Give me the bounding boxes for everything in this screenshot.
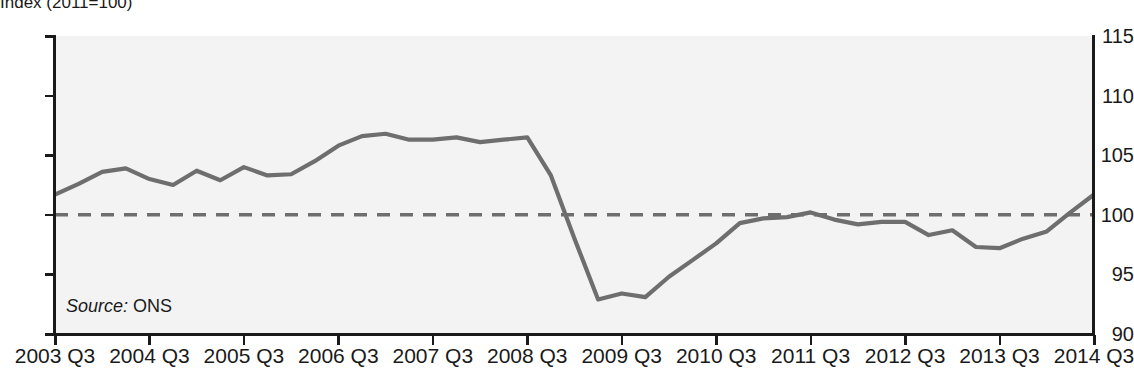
x-tick-mark <box>810 335 813 345</box>
y-tick-label: 105 <box>1092 145 1134 165</box>
y-tick-mark <box>45 95 54 98</box>
plot-right-border <box>1092 35 1095 335</box>
source-label: Source: <box>66 296 128 316</box>
y-tick-mark <box>45 333 54 336</box>
source-note: Source: ONS <box>66 296 172 317</box>
x-axis-line <box>53 333 1095 336</box>
y-tick-mark <box>45 273 54 276</box>
y-tick-label: 115 <box>1092 26 1134 46</box>
x-tick-mark <box>999 335 1002 345</box>
x-tick-mark <box>1093 335 1096 345</box>
chart-figure: Index (2011=100) 1151101051009590 2003 Q… <box>0 0 1134 371</box>
y-tick-label: 100 <box>1092 205 1134 225</box>
x-tick-mark <box>243 335 246 345</box>
plot-svg <box>55 36 1094 334</box>
y-tick-mark <box>45 154 54 157</box>
source-value: ONS <box>133 296 172 316</box>
x-tick-mark <box>54 335 57 345</box>
x-tick-mark <box>337 335 340 345</box>
plot-background <box>55 36 1094 334</box>
y-tick-label: 95 <box>1092 264 1134 284</box>
x-tick-mark <box>904 335 907 345</box>
y-tick-label: 90 <box>1092 324 1134 344</box>
x-tick-mark <box>148 335 151 345</box>
y-tick-label: 110 <box>1092 86 1134 106</box>
y-tick-mark <box>45 35 54 38</box>
x-tick-mark <box>526 335 529 345</box>
y-axis-line <box>53 35 56 335</box>
y-tick-mark <box>45 214 54 217</box>
chart-title: Index (2011=100) <box>0 0 132 13</box>
x-tick-mark <box>432 335 435 345</box>
x-tick-label: 2014 Q3 <box>1034 344 1134 367</box>
plot-area <box>55 36 1094 334</box>
x-tick-mark <box>715 335 718 345</box>
x-tick-mark <box>621 335 624 345</box>
